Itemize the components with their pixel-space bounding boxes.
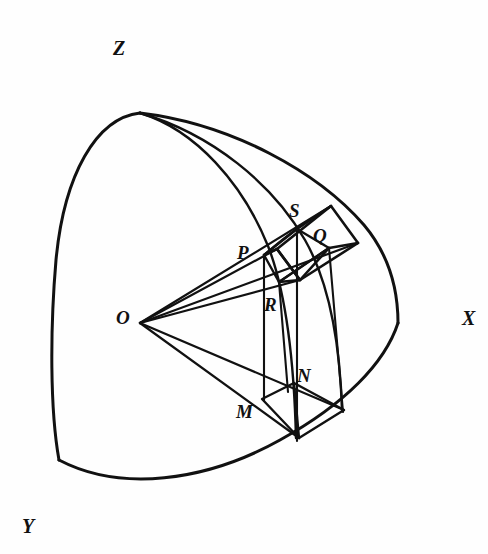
great-circle-yz-arc: [52, 113, 140, 460]
point-label-r: R: [264, 295, 277, 314]
point-label-n: N: [297, 366, 311, 385]
point-label-q: Q: [313, 226, 327, 245]
axis-label-x: X: [462, 308, 475, 328]
diagram-canvas: [0, 0, 488, 554]
axis-label-z: Z: [113, 38, 125, 58]
equator-arc: [59, 323, 398, 479]
point-label-m: M: [236, 402, 253, 421]
ray-O-P: [140, 249, 277, 323]
point-label-o: O: [116, 308, 130, 327]
projection-line-Q: [329, 248, 343, 412]
point-label-p: P: [237, 243, 249, 262]
geometry-figure: Z X Y O P S Q R M N: [0, 0, 488, 554]
point-label-s: S: [289, 201, 300, 220]
great-circle-xz-arc: [140, 113, 398, 323]
base-element-MN: [262, 383, 344, 438]
axis-label-y: Y: [22, 516, 34, 536]
